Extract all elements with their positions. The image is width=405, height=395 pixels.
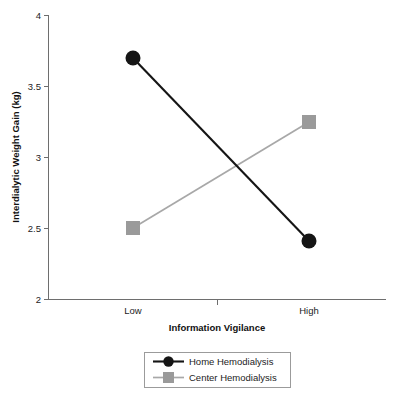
legend-marker-square-icon: [163, 372, 174, 383]
chart-legend: Home Hemodialysis Center Hemodialysis: [145, 353, 291, 388]
y-tick-label-2-5: 2.5: [28, 223, 41, 234]
chart-figure: 4 3.5 3 2.5 2 Low High Information Vigil…: [0, 0, 405, 395]
marker-center-hemodialysis-high: [302, 115, 316, 129]
y-axis-title: Interdialytic Weight Gain (kg): [10, 91, 21, 222]
marker-home-hemodialysis-low: [126, 51, 141, 66]
y-tick-label-3-5: 3.5: [28, 81, 41, 92]
interaction-line-chart: 4 3.5 3 2.5 2 Low High Information Vigil…: [0, 0, 405, 395]
x-tick-label-low: Low: [124, 305, 142, 316]
marker-home-hemodialysis-high: [302, 234, 317, 249]
legend-marker-circle-icon: [163, 356, 173, 366]
x-tick-label-high: High: [299, 305, 319, 316]
y-tick-label-3: 3: [36, 152, 41, 163]
y-tick-label-2: 2: [36, 294, 41, 305]
series-line-home-hemodialysis: [133, 58, 309, 241]
marker-center-hemodialysis-low: [126, 221, 140, 235]
y-tick-label-4: 4: [36, 10, 41, 21]
x-axis-title: Information Vigilance: [169, 322, 265, 333]
legend-label-center-hemodialysis: Center Hemodialysis: [189, 372, 277, 383]
legend-label-home-hemodialysis: Home Hemodialysis: [189, 356, 274, 367]
